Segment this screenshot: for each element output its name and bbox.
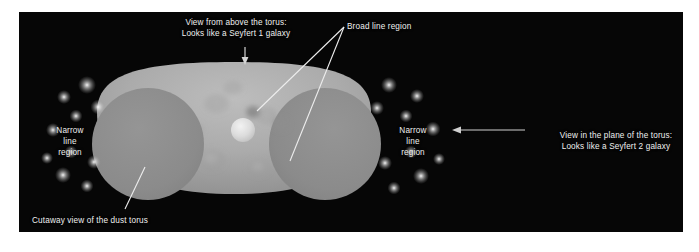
view-plane-arrow: [452, 127, 525, 134]
label-broad-line-region: Broad line region: [347, 21, 457, 32]
label-narrow-line-region-left: Narrow line region: [39, 125, 101, 158]
label-view-in-plane: View in the plane of the torus: Looks li…: [531, 130, 683, 152]
label-view-from-above: View from above the torus: Looks like a …: [156, 17, 316, 39]
torus-graphic: [19, 12, 683, 232]
central-source: [231, 118, 255, 142]
label-cutaway-view: Cutaway view of the dust torus: [32, 215, 212, 226]
astronomy-diagram-figure: View from above the torus: Looks like a …: [0, 0, 699, 252]
cutaway-face-left: [92, 88, 204, 200]
label-narrow-line-region-right: Narrow line region: [382, 125, 444, 158]
sky-panel: View from above the torus: Looks like a …: [19, 12, 683, 232]
cutaway-face-right: [269, 88, 381, 200]
